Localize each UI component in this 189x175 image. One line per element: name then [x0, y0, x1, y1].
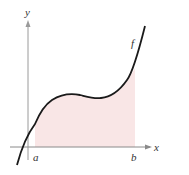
y-axis-arrow-icon	[26, 20, 31, 27]
upper-bound-label: b	[131, 151, 137, 163]
function-label: f	[131, 37, 136, 49]
graph-canvas: y x f a b	[0, 0, 189, 175]
shaded-region	[35, 68, 135, 147]
y-axis-label: y	[24, 6, 30, 18]
graph-figure: y x f a b	[0, 0, 189, 175]
lower-bound-label: a	[33, 151, 39, 163]
x-axis-label: x	[153, 141, 159, 153]
x-axis-arrow-icon	[145, 145, 152, 150]
